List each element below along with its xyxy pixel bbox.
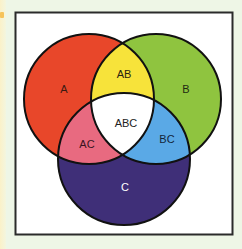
label-c: C [121, 181, 129, 193]
label-abc: ABC [115, 117, 138, 129]
label-bc: BC [159, 133, 174, 145]
label-b: B [182, 83, 189, 95]
label-a: A [60, 83, 68, 95]
venn-diagram: A AB B AC ABC BC C [0, 0, 242, 249]
label-ac: AC [79, 138, 94, 150]
label-ab: AB [117, 68, 132, 80]
